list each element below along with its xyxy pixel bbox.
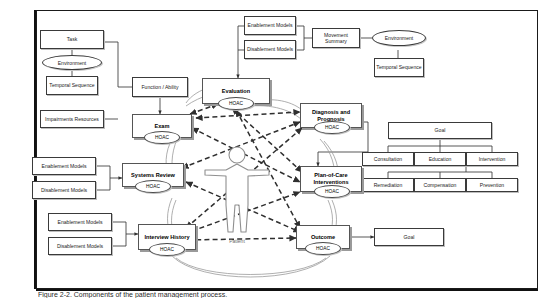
- hoac-label-interview: HOAC: [160, 247, 174, 252]
- figure-caption-text: Figure 2-2. Components of the patient ma…: [38, 291, 227, 298]
- goal-consultation-box: Consultation: [362, 152, 414, 166]
- hoac-oval-interview: HOAC: [149, 243, 185, 256]
- interview-history-label: Interview History: [144, 234, 189, 241]
- temporal-sequence-label-left: Temporal Sequence: [48, 82, 95, 88]
- goal-remediation-box: Remediation: [362, 178, 414, 192]
- exam-label: Exam: [155, 123, 170, 130]
- hoac-oval-diagnosis: HOAC: [314, 121, 350, 134]
- movement-summary-label: Movement Summary: [313, 32, 359, 44]
- goal-root-box: Goal: [388, 122, 492, 139]
- disablement-models-box-interview: Disablement Models: [48, 237, 112, 255]
- function-ability-label: Function / Ability: [140, 84, 179, 90]
- function-ability-box: Function / Ability: [132, 77, 188, 97]
- environment-ellipse-left: Environment: [42, 55, 102, 70]
- goal-education-label: Education: [428, 156, 453, 162]
- patient-label-text: Patient: [229, 238, 245, 244]
- enablement-models-box-top: Enablement Models: [244, 16, 296, 35]
- goal-compensation-label: Compensation: [423, 182, 458, 188]
- systems-review-label: Systems Review: [131, 172, 175, 179]
- disablement-models-box-systems: Disablement Models: [32, 181, 96, 199]
- figure-container: Task Environment Temporal Sequence Impai…: [0, 0, 548, 300]
- hoac-label-diagnosis: HOAC: [325, 125, 339, 130]
- hoac-oval-systems: HOAC: [135, 180, 171, 193]
- goal-remediation-label: Remediation: [373, 182, 404, 188]
- outcome-label: Outcome: [311, 234, 335, 241]
- movement-summary-box: Movement Summary: [312, 28, 360, 48]
- temporal-sequence-box-left: Temporal Sequence: [46, 76, 98, 95]
- goal-prevention-label: Prevention: [479, 182, 505, 188]
- hoac-oval-exam: HOAC: [144, 131, 180, 144]
- enablement-models-box-systems: Enablement Models: [32, 157, 96, 175]
- enablement-models-label-interview: Enablement Models: [56, 219, 103, 225]
- temporal-sequence-label-top: Temporal Sequence: [375, 64, 422, 70]
- task-label: Task: [66, 36, 78, 42]
- goal-intervention-label: Intervention: [478, 156, 507, 162]
- goal-root-label: Goal: [434, 127, 447, 133]
- plan-of-care-label: Plan-of-Care Interventions: [301, 172, 361, 185]
- goal-prevention-box: Prevention: [466, 178, 518, 192]
- disablement-models-box-top: Disablement Models: [244, 40, 296, 59]
- temporal-sequence-box-top: Temporal Sequence: [374, 58, 424, 77]
- goal-education-box: Education: [414, 152, 466, 166]
- disablement-models-label-top: Disablement Models: [246, 46, 294, 52]
- impairments-resources-box: Impairments Resources: [40, 110, 104, 128]
- hoac-label-evaluation: HOAC: [229, 101, 243, 106]
- outcome-goal-label: Goal: [403, 234, 416, 240]
- hoac-oval-outcome: HOAC: [305, 242, 341, 255]
- disablement-models-label-interview: Disablement Models: [56, 243, 104, 249]
- evaluation-label: Evaluation: [222, 88, 250, 95]
- hoac-label-outcome: HOAC: [316, 246, 330, 251]
- goal-consultation-label: Consultation: [373, 156, 403, 162]
- figure-caption: Figure 2-2. Components of the patient ma…: [38, 291, 538, 298]
- hoac-label-exam: HOAC: [155, 135, 169, 140]
- enablement-models-label-systems: Enablement Models: [40, 163, 87, 169]
- enablement-models-box-interview: Enablement Models: [48, 213, 112, 231]
- patient-label: Patient: [207, 238, 267, 244]
- environment-ellipse-top: Environment: [372, 30, 426, 46]
- goal-intervention-box: Intervention: [466, 152, 518, 166]
- outcome-goal-box: Goal: [374, 228, 444, 246]
- enablement-models-label-top: Enablement Models: [246, 22, 293, 28]
- disablement-models-label-systems: Disablement Models: [40, 187, 88, 193]
- hoac-label-plan: HOAC: [325, 189, 339, 194]
- task-box: Task: [40, 30, 104, 49]
- hoac-oval-plan: HOAC: [314, 185, 350, 198]
- environment-label-top: Environment: [385, 35, 414, 41]
- hoac-label-systems: HOAC: [146, 184, 160, 189]
- hoac-oval-evaluation: HOAC: [218, 97, 254, 110]
- goal-compensation-box: Compensation: [414, 178, 466, 192]
- impairments-resources-label: Impairments Resources: [44, 116, 100, 122]
- environment-label-left: Environment: [58, 60, 87, 66]
